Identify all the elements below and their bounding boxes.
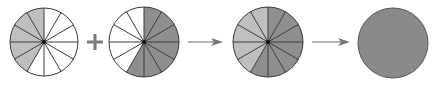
whole-circle [358,8,428,78]
pie-combined-twelve-twelfths [233,7,303,77]
plus-icon [87,34,103,50]
diagram-canvas [0,0,433,85]
pie-seven-twelfths [109,7,179,77]
arrow-right-icon [188,38,223,46]
pie-five-twelfths [10,8,78,76]
arrow-right-icon [312,38,350,46]
fraction-diagram [0,0,433,85]
